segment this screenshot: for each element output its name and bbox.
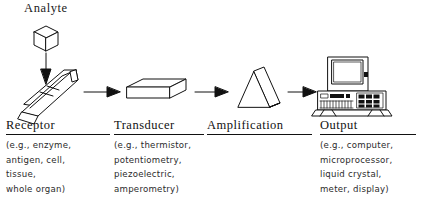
stage-detail-output: (e.g., computer, microprocessor, liquid … xyxy=(320,138,420,196)
stage-output: Output (e.g., computer, microprocessor, … xyxy=(320,118,420,196)
detail-line: whole organ) xyxy=(6,182,114,197)
biosensor-diagram: Analyte xyxy=(0,0,422,215)
arrow-amplification-to-output xyxy=(288,87,316,97)
stage-detail-receptor: (e.g., enzyme, antigen, cell, tissue, wh… xyxy=(6,138,114,196)
analyte-cube-icon xyxy=(34,26,58,51)
stage-heading-output: Output xyxy=(320,118,420,134)
arrow-transducer-to-amplification xyxy=(195,87,228,97)
arrow-receptor-to-transducer xyxy=(84,87,120,97)
stage-receptor: Receptor (e.g., enzyme, antigen, cell, t… xyxy=(6,118,114,196)
arrow-analyte-to-receptor xyxy=(41,53,51,84)
detail-line: liquid crystal, xyxy=(320,167,420,182)
stage-rule-transducer xyxy=(114,134,204,135)
detail-line: antigen, cell, xyxy=(6,153,114,168)
detail-line: tissue, xyxy=(6,167,114,182)
detail-line: amperometry) xyxy=(114,182,210,197)
detail-line: microprocessor, xyxy=(320,153,420,168)
stage-rule-receptor xyxy=(6,134,110,135)
transducer-slab-icon xyxy=(127,79,186,98)
detail-line: (e.g., thermistor, xyxy=(114,138,210,153)
detail-line: potentiometry, xyxy=(114,153,210,168)
detail-line: (e.g., enzyme, xyxy=(6,138,114,153)
detail-line: (e.g., computer, xyxy=(320,138,420,153)
amplifier-prism-icon xyxy=(238,67,280,107)
stage-heading-receptor: Receptor xyxy=(6,118,114,134)
stage-transducer: Transducer (e.g., thermistor, potentiome… xyxy=(114,118,210,196)
detail-line: meter, display) xyxy=(320,182,420,197)
stage-rule-output xyxy=(320,134,416,135)
stage-heading-amplification: Amplification xyxy=(207,118,317,134)
stage-detail-transducer: (e.g., thermistor, potentiometry, piezoe… xyxy=(114,138,210,196)
detail-line: piezoelectric, xyxy=(114,167,210,182)
computer-workstation-icon xyxy=(312,57,392,116)
stage-amplification: Amplification xyxy=(207,118,317,138)
stage-heading-transducer: Transducer xyxy=(114,118,210,134)
stage-rule-amplification xyxy=(207,134,312,135)
